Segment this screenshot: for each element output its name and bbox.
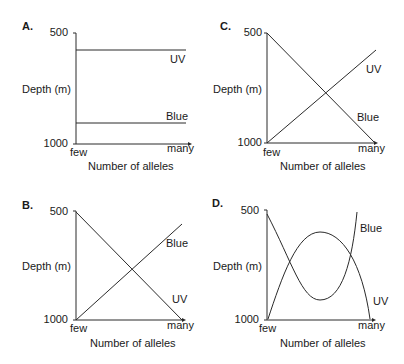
plot-area bbox=[202, 182, 404, 364]
panel-c: C. 500 1000 Depth (m) few many Number of… bbox=[202, 0, 404, 182]
plot-area bbox=[0, 0, 202, 182]
panel-a: A. 500 1000 Depth (m) few many Number of… bbox=[0, 0, 202, 182]
panel-b: B. 500 1000 Depth (m) few many Number of… bbox=[0, 182, 202, 364]
plot-area bbox=[202, 0, 404, 182]
panel-d: D. 500 1000 Depth (m) few many Number of… bbox=[202, 182, 404, 364]
plot-area bbox=[0, 182, 202, 364]
